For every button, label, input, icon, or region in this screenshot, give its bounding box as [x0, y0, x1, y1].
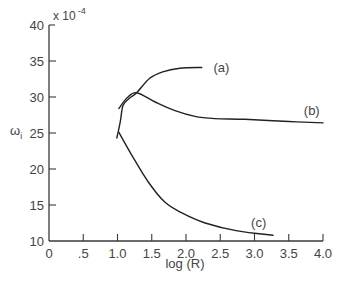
x-tick-label: 0	[45, 246, 52, 261]
y-tick-label: 40	[30, 18, 44, 33]
curve-a-label: (a)	[213, 60, 229, 75]
axes: 0.51.01.52.02.53.03.54.010152025303540	[30, 18, 333, 261]
y-axis-multiplier-exponent: -4	[78, 6, 86, 16]
y-tick-label: 10	[30, 234, 44, 249]
x-tick-label: 4.0	[314, 246, 332, 261]
x-tick-label: 1.5	[143, 246, 161, 261]
y-axis-title: ωi	[10, 123, 22, 141]
y-axis-title-symbol: ω	[10, 123, 20, 138]
x-tick-label: .5	[78, 246, 89, 261]
y-tick-label: 25	[30, 126, 44, 141]
curves	[117, 68, 323, 236]
curve-a	[117, 68, 202, 139]
x-axis-title: log (R)	[165, 256, 204, 271]
y-tick-label: 35	[30, 54, 44, 69]
y-tick-label: 30	[30, 90, 44, 105]
y-tick-label: 20	[30, 162, 44, 177]
curve-c	[119, 132, 273, 235]
x-tick-label: 1.0	[108, 246, 126, 261]
y-axis-multiplier-base: x 10	[53, 9, 76, 23]
x-tick-label: 3.0	[245, 246, 263, 261]
y-tick-label: 15	[30, 198, 44, 213]
x-tick-label: 3.5	[280, 246, 298, 261]
y-axis-multiplier: x 10-4	[53, 6, 86, 23]
curve-b-label: (b)	[304, 103, 320, 118]
curve-b	[119, 93, 323, 123]
series-labels: (a)(b)(c)	[213, 60, 319, 230]
curve-c-label: (c)	[251, 215, 266, 230]
y-axis-title-subscript: i	[20, 131, 22, 141]
chart-figure: 0.51.01.52.02.53.03.54.010152025303540 (…	[0, 0, 339, 292]
x-tick-label: 2.5	[211, 246, 229, 261]
